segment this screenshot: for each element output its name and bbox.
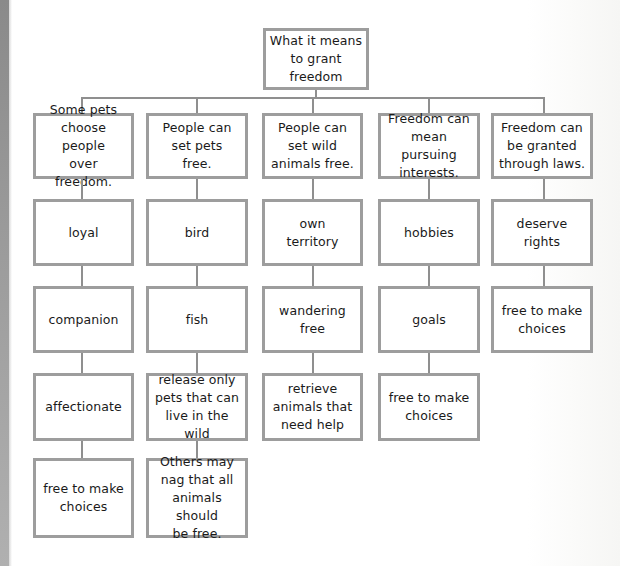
connector — [81, 441, 83, 459]
col1-heading: Some pets choose people over freedom. — [33, 113, 134, 179]
connector — [312, 179, 314, 199]
connector — [428, 353, 430, 373]
connector — [543, 266, 545, 286]
col3-detail-2: wandering free — [262, 286, 363, 353]
col3-heading: People can set wild animals free. — [262, 113, 363, 179]
connector — [196, 179, 198, 199]
connector — [543, 179, 545, 199]
root-node: What it means to grant freedom — [263, 28, 369, 90]
connector — [312, 266, 314, 286]
col3-detail-1: own territory — [262, 199, 363, 266]
connector — [81, 266, 83, 286]
col5-detail-2: free to make choices — [491, 286, 593, 353]
col2-detail-1: bird — [146, 199, 248, 266]
col3-detail-3: retrieve animals that need help — [262, 373, 363, 441]
connector — [312, 353, 314, 373]
col5-detail-1: deserve rights — [491, 199, 593, 266]
connector-col2 — [196, 97, 198, 114]
col2-heading: People can set pets free. — [146, 113, 248, 179]
col2-detail-3: release only pets that can live in the w… — [146, 373, 248, 441]
connector — [81, 179, 83, 199]
col1-detail-1: loyal — [33, 199, 134, 266]
col4-detail-2: goals — [378, 286, 480, 353]
col1-detail-2: companion — [33, 286, 134, 353]
connector — [428, 179, 430, 199]
page-edge-shadow — [0, 0, 9, 566]
col2-detail-4: Others may nag that all animals should b… — [146, 458, 248, 538]
col4-detail-3: free to make choices — [378, 373, 480, 441]
col5-heading: Freedom can be granted through laws. — [491, 113, 593, 179]
col2-detail-2: fish — [146, 286, 248, 353]
col4-heading: Freedom can mean pursuing interests. — [378, 113, 480, 179]
connector — [428, 266, 430, 286]
connector-col3 — [312, 97, 314, 114]
connector — [81, 353, 83, 373]
root-label: What it means to grant freedom — [270, 32, 362, 86]
connector-col5 — [543, 97, 545, 114]
col1-detail-3: affectionate — [33, 373, 134, 441]
col4-detail-1: hobbies — [378, 199, 480, 266]
connector — [196, 266, 198, 286]
connector — [196, 353, 198, 373]
col1-detail-4: free to make choices — [33, 458, 134, 538]
